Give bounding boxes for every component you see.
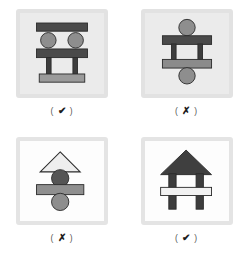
left-circle xyxy=(41,33,56,48)
left-pillar xyxy=(47,58,52,75)
panel-3-caption: ( ✗ ) xyxy=(51,233,74,243)
panel-1-caption: ( ✔ ) xyxy=(51,106,74,116)
illustration-panel-4[interactable] xyxy=(141,137,233,225)
bottom-circle xyxy=(179,68,195,84)
cross-icon: ✗ xyxy=(56,233,69,243)
top-beam xyxy=(162,36,211,45)
panel-cell-1: ( ✔ ) xyxy=(0,0,125,130)
illustration-panel-1[interactable] xyxy=(16,9,108,98)
illustration-panel-2[interactable] xyxy=(141,9,233,98)
panel-4-drawing xyxy=(145,141,229,221)
panel-1-drawing xyxy=(20,13,104,94)
triangle-roof xyxy=(160,150,211,175)
caption-open-paren: ( xyxy=(175,234,179,243)
base-beam xyxy=(39,74,85,82)
top-beam xyxy=(37,23,88,31)
check-icon: ✔ xyxy=(180,233,193,243)
panel-cell-2: ( ✗ ) xyxy=(125,0,250,130)
caption-open-paren: ( xyxy=(175,107,179,116)
top-circle xyxy=(179,19,195,35)
caption-open-paren: ( xyxy=(51,234,55,243)
caption-close-paren: ) xyxy=(70,107,74,116)
panel-cell-3: ( ✗ ) xyxy=(0,130,125,259)
panel-2-caption: ( ✗ ) xyxy=(175,106,198,116)
triangle-roof xyxy=(40,151,80,171)
panel-2-drawing xyxy=(145,13,229,94)
panel-3-drawing xyxy=(20,141,104,221)
figure-root: ( ✔ ) ( ✗ ) xyxy=(0,0,249,259)
caption-close-paren: ) xyxy=(70,234,74,243)
illustration-panel-3[interactable] xyxy=(16,137,108,225)
cross-icon: ✗ xyxy=(180,106,193,116)
caption-close-paren: ) xyxy=(194,234,198,243)
caption-close-paren: ) xyxy=(194,107,198,116)
caption-open-paren: ( xyxy=(51,107,55,116)
base-beam xyxy=(162,59,211,68)
panel-cell-4: ( ✔ ) xyxy=(125,130,250,259)
panel-4-caption: ( ✔ ) xyxy=(175,233,198,243)
left-pillar xyxy=(171,44,176,60)
panel-grid: ( ✔ ) ( ✗ ) xyxy=(0,0,249,259)
cross-beam xyxy=(160,187,211,195)
right-pillar xyxy=(73,58,78,75)
right-circle xyxy=(68,33,83,48)
check-icon: ✔ xyxy=(56,106,69,116)
middle-beam xyxy=(37,49,88,58)
right-pillar xyxy=(198,44,203,60)
light-circle xyxy=(52,193,69,210)
